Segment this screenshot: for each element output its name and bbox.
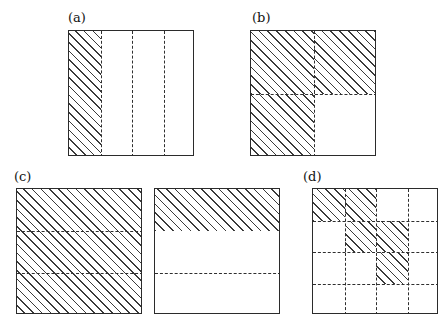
panel-label-d: (d) (303, 170, 321, 184)
hatched-cell-d-r0c0 (313, 189, 345, 221)
hatched-region-b-1 (251, 31, 314, 94)
divider-b-1-2 (251, 94, 376, 95)
square-c-1 (16, 188, 142, 314)
divider-a-1-3 (164, 31, 165, 156)
hatched-region-b-2 (314, 31, 376, 94)
square-a-1 (68, 30, 194, 156)
divider-c-1-1 (17, 231, 142, 232)
divider-c-2-1 (155, 273, 280, 274)
divider-d-1-6 (313, 284, 438, 285)
square-d-1 (312, 188, 438, 314)
divider-c-1-2 (17, 273, 142, 274)
square-c-2 (154, 188, 280, 314)
divider-d-1-5 (313, 252, 438, 253)
square-b-1 (250, 30, 376, 156)
hatched-region-c-1 (17, 189, 142, 314)
hatched-cell-d-r1c1 (345, 221, 377, 253)
hatched-cell-d-r1c2 (376, 221, 408, 253)
divider-a-1-1 (101, 31, 102, 156)
hatched-cell-d-r0c1 (345, 189, 377, 221)
divider-a-1-2 (132, 31, 133, 156)
panel-label-b: (b) (252, 11, 270, 25)
hatched-region-c-1 (155, 189, 280, 231)
hatched-region-b-3 (251, 94, 314, 156)
hatched-region-a-1 (69, 31, 101, 156)
panel-label-a: (a) (68, 11, 86, 25)
hatched-cell-d-r2c2 (376, 252, 408, 284)
divider-d-1-4 (313, 221, 438, 222)
figure-root: (a)(b)(c)(d) (0, 0, 448, 330)
panel-label-c: (c) (14, 170, 31, 184)
